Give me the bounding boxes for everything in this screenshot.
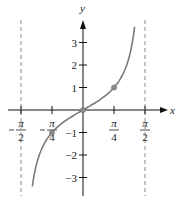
point-marker xyxy=(49,130,54,135)
svg-text:π: π xyxy=(18,117,24,129)
y-tick-label: −3 xyxy=(65,172,77,184)
svg-text:π: π xyxy=(111,117,117,129)
y-tick-label: −1 xyxy=(65,127,77,139)
y-tick-label: −2 xyxy=(65,149,77,161)
svg-text:4: 4 xyxy=(111,131,117,143)
svg-text:π: π xyxy=(142,117,148,129)
tangent-graph: π2π4π4π2 321−1−2−3 x y xyxy=(0,0,181,205)
x-axis-arrow-icon xyxy=(160,107,168,113)
y-axis-label: y xyxy=(79,2,85,14)
point-marker xyxy=(80,107,85,112)
y-axis-arrow-icon xyxy=(80,20,86,29)
point-marker xyxy=(111,85,116,90)
y-tick-label: 1 xyxy=(72,82,78,94)
svg-text:2: 2 xyxy=(18,131,24,143)
x-tick-label: π2 xyxy=(9,117,26,143)
svg-text:π: π xyxy=(49,117,55,129)
x-axis-label: x xyxy=(169,104,175,116)
svg-text:2: 2 xyxy=(142,131,148,143)
y-tick-label: 3 xyxy=(72,37,78,49)
y-tick-label: 2 xyxy=(72,59,78,71)
x-tick-label: π2 xyxy=(140,117,150,143)
x-tick-label: π4 xyxy=(109,117,119,143)
